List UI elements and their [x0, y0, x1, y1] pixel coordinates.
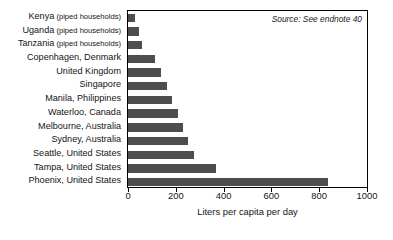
category-label-name: Manila, Philippines	[45, 93, 121, 103]
bar-row	[128, 38, 142, 52]
bar	[128, 151, 194, 159]
bar	[128, 41, 142, 49]
bar-row	[128, 93, 172, 107]
category-label: Copenhagen, Denmark	[0, 51, 124, 65]
category-label: Seattle, United States	[0, 147, 124, 161]
category-label: Kenya (piped households)	[0, 10, 124, 24]
category-label-name: Kenya	[29, 11, 55, 21]
bar	[128, 82, 167, 90]
category-label-name: Melbourne, Australia	[38, 121, 121, 131]
bar	[128, 123, 183, 131]
bar	[128, 55, 155, 63]
plot-area: Source: See endnote 40	[127, 10, 368, 188]
category-label-qualifier: (piped households)	[54, 39, 121, 48]
category-label-name: Waterloo, Canada	[48, 107, 121, 117]
category-label: United Kingdom	[0, 65, 124, 79]
category-label-name: Sydney, Australia	[51, 134, 121, 144]
x-axis-title: Liters per capita per day	[127, 206, 368, 217]
category-label-name: Singapore	[80, 79, 121, 89]
bar-row	[128, 66, 161, 80]
category-label-name: United Kingdom	[56, 66, 121, 76]
bar	[128, 137, 188, 145]
bar	[128, 27, 139, 35]
bar-row	[128, 107, 178, 121]
category-label-name: Uganda	[22, 25, 54, 35]
category-label-name: Copenhagen, Denmark	[27, 52, 121, 62]
category-label-name: Seattle, United States	[33, 148, 121, 158]
x-tick-label: 400	[216, 190, 232, 201]
bar-row	[128, 52, 155, 66]
water-use-bar-chart: Kenya (piped households)Uganda (piped ho…	[0, 0, 393, 240]
bar-row	[128, 25, 139, 39]
bar-row	[128, 121, 183, 135]
bar	[128, 178, 328, 186]
bar-row	[128, 79, 167, 93]
x-tick-label: 200	[168, 190, 184, 201]
category-label-qualifier: (piped households)	[54, 26, 121, 35]
x-tick-label: 600	[264, 190, 280, 201]
category-label: Manila, Philippines	[0, 92, 124, 106]
category-label-axis: Kenya (piped households)Uganda (piped ho…	[0, 10, 124, 188]
bar-row	[128, 134, 188, 148]
x-tick-label: 0	[125, 190, 130, 201]
bar	[128, 68, 161, 76]
category-label: Uganda (piped households)	[0, 24, 124, 38]
category-label-qualifier: (piped households)	[54, 12, 121, 21]
bar	[128, 109, 178, 117]
category-label-name: Phoenix, United States	[28, 175, 121, 185]
bar	[128, 164, 216, 172]
category-label: Singapore	[0, 78, 124, 92]
x-axis-tick-labels: 02004006008001000	[0, 190, 393, 204]
category-label-name: Tanzania	[18, 38, 54, 48]
category-label-name: Tampa, United States	[34, 162, 121, 172]
bar-row	[128, 162, 216, 176]
bar-row	[128, 148, 194, 162]
category-label: Tanzania (piped households)	[0, 37, 124, 51]
category-label: Waterloo, Canada	[0, 106, 124, 120]
category-label: Phoenix, United States	[0, 174, 124, 188]
category-label: Melbourne, Australia	[0, 120, 124, 134]
bar-row	[128, 175, 328, 189]
bar-row	[128, 11, 135, 25]
x-tick-label: 1000	[357, 190, 378, 201]
bar	[128, 14, 135, 22]
category-label: Tampa, United States	[0, 161, 124, 175]
bar	[128, 96, 172, 104]
x-tick-label: 800	[311, 190, 327, 201]
bars-layer	[128, 11, 367, 187]
category-label: Sydney, Australia	[0, 133, 124, 147]
